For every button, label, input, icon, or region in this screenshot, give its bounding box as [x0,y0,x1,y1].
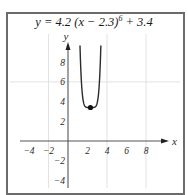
x-tick-label: 6 [124,146,129,156]
x-tick-label: 4 [105,146,110,156]
y-axis-arrow-icon [66,42,71,50]
y-tick-label: 4 [60,97,65,107]
axes [20,42,169,188]
y-tick-label: 8 [60,58,65,68]
y-tick-label: −2 [54,156,65,166]
x-tick-label: −4 [23,146,34,156]
y-axis-label: y [63,30,69,42]
x-tick-label: 8 [144,146,149,156]
y-tick-label: 6 [60,77,65,87]
x-axis-arrow-icon [161,139,169,144]
tick-labels: −4−224688642−2−4 [23,58,148,186]
grid-lines [10,34,180,188]
function-curve [80,45,101,107]
function-graph: y = 4.2 (x − 2.3)6 + 3.4 −4−224688642−2−… [0,0,188,195]
y-tick-label: 2 [60,117,65,127]
chart-title: y = 4.2 (x − 2.3)6 + 3.4 [33,14,152,29]
vertex-point [88,105,93,110]
x-axis-label: x [171,135,177,147]
x-tick-label: 2 [85,146,90,156]
x-tick-label: −2 [43,146,54,156]
y-tick-label: −4 [54,176,65,186]
